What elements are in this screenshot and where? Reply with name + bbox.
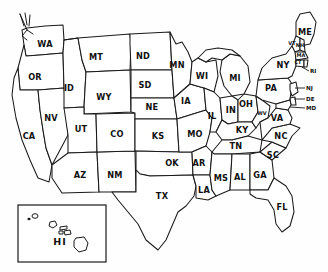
us-map-svg: HI WA OR CA NV ID MT WY UT AZ NM CO ND S… — [0, 0, 328, 272]
state-label-ny: NY — [276, 60, 290, 70]
state-label-ms: MS — [214, 173, 228, 183]
state-label-sd: SD — [138, 80, 151, 90]
state-label-wy: WY — [96, 92, 112, 102]
state-label-ri: RI — [310, 68, 316, 74]
state-label-tx: TX — [156, 191, 169, 201]
state-label-wi: WI — [196, 71, 208, 81]
state-label-wv: WV — [257, 110, 267, 116]
state-label-mi: MI — [229, 73, 241, 83]
state-label-ar: AR — [192, 158, 206, 168]
state-label-nh: NH — [296, 42, 304, 48]
state-label-co: CO — [110, 129, 123, 139]
state-label-nd: ND — [136, 51, 150, 61]
leader-line-md — [290, 107, 305, 108]
state-label-nm: NM — [107, 170, 122, 180]
state-label-or: OR — [28, 72, 42, 82]
state-label-wa: WA — [37, 39, 53, 49]
island-niihau — [27, 218, 30, 220]
state-label-id: ID — [64, 83, 74, 93]
state-label-pa: PA — [265, 83, 277, 93]
state-label-al: AL — [234, 172, 246, 182]
leader-line-ri — [302, 67, 309, 71]
state-shape-sd[interactable] — [131, 70, 174, 98]
state-label-ks: KS — [152, 131, 165, 141]
state-label-me: ME — [298, 27, 312, 37]
callout-labels: RI NJ DE MD — [306, 68, 317, 111]
state-label-va: VA — [271, 113, 284, 123]
state-label-ma: MA — [297, 52, 306, 58]
island-kauai — [32, 214, 38, 219]
state-label-az: AZ — [74, 170, 87, 180]
state-label-in: IN — [226, 105, 236, 115]
state-label-sc: SC — [267, 150, 279, 160]
state-shape-nj[interactable] — [290, 82, 298, 96]
hawaii-inset[interactable]: HI — [18, 205, 106, 262]
state-label-mo: MO — [187, 129, 203, 139]
island-lanai — [59, 231, 63, 234]
us-map-container: HI WA OR CA NV ID MT WY UT AZ NM CO ND S… — [0, 0, 328, 272]
hawaii-label: HI — [53, 236, 67, 247]
state-label-mn: MN — [169, 60, 184, 70]
state-label-ct: CT — [294, 59, 302, 65]
state-label-nv: NV — [44, 113, 58, 123]
state-label-md: MD — [306, 105, 317, 111]
state-label-la: LA — [198, 185, 210, 195]
state-label-de: DE — [306, 96, 315, 102]
state-label-tn: TN — [230, 141, 243, 151]
island-molokai — [60, 226, 67, 230]
state-label-ga: GA — [253, 170, 267, 180]
state-label-nc: NC — [274, 131, 287, 141]
state-label-ia: IA — [181, 96, 191, 106]
state-label-ca: CA — [23, 131, 36, 141]
state-label-ne: NE — [146, 102, 159, 112]
state-label-oh: OH — [239, 99, 253, 109]
state-shape-ok[interactable] — [135, 151, 193, 176]
island-hawaii — [74, 237, 88, 252]
state-label-ut: UT — [75, 124, 88, 134]
island-maui — [64, 230, 71, 235]
state-label-ok: OK — [165, 158, 179, 168]
state-shape-ri[interactable] — [304, 60, 308, 67]
state-label-fl: FL — [276, 202, 287, 212]
state-label-ky: KY — [236, 125, 250, 135]
state-label-il: IL — [208, 111, 217, 121]
state-label-mt: MT — [89, 52, 103, 62]
state-label-nj: NJ — [306, 85, 313, 92]
